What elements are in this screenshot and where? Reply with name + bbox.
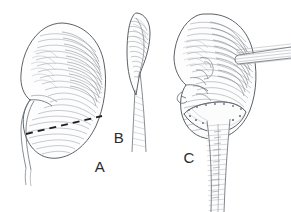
kidney-a-body xyxy=(21,23,106,158)
illustration-canvas: A xyxy=(0,0,291,212)
panel-label-c: C xyxy=(183,149,194,166)
kidney-a-ureter-inner xyxy=(30,170,31,186)
panel-a-kidney: A xyxy=(21,23,106,186)
panel-b-kidney-edge: B xyxy=(114,13,150,152)
panel-label-a: A xyxy=(95,158,105,175)
stapler-shaft xyxy=(204,119,233,212)
kidney-a-ureter xyxy=(25,168,26,185)
panel-c-kidney-stapler: C xyxy=(174,14,291,212)
panel-label-b: B xyxy=(114,129,124,146)
medical-illustration-figure: A xyxy=(0,0,291,212)
